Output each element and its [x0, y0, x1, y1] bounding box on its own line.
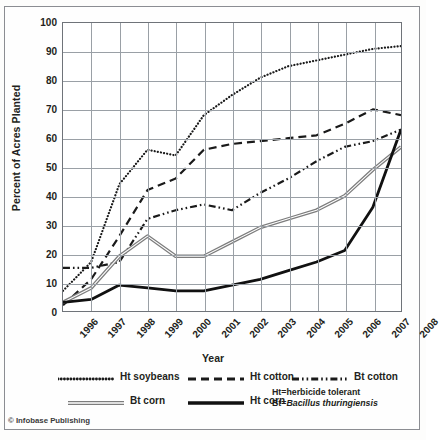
y-tick-label: 20 [27, 249, 57, 260]
legend-swatch-ht-cotton [188, 373, 244, 385]
x-tick-label: 2004 [304, 316, 327, 340]
gridline-horizontal [63, 284, 401, 285]
gridline-vertical [91, 23, 92, 311]
gridline-vertical [290, 23, 291, 311]
y-tick-label: 60 [27, 133, 57, 144]
gridline-vertical [261, 23, 262, 311]
gridline-vertical [375, 23, 376, 311]
note-ht: Ht=herbicide tolerant [272, 387, 378, 398]
x-tick-label: 2001 [219, 316, 242, 340]
x-tick-label: 2005 [332, 316, 355, 340]
gridline-horizontal [63, 226, 401, 227]
series-line-bt-corn-outer [63, 147, 401, 303]
gridline-vertical [205, 23, 206, 311]
legend-label-ht-soybeans: Ht soybeans [120, 371, 179, 382]
gridline-horizontal [63, 139, 401, 140]
series-line-ht-corn [63, 130, 401, 303]
gridline-vertical [120, 23, 121, 311]
plot-area-wrapper: Percent of Acres Planted 010203040506070… [0, 0, 426, 330]
gridline-vertical [318, 23, 319, 311]
x-tick-label: 1999 [162, 316, 185, 340]
gridline-vertical [233, 23, 234, 311]
gridline-horizontal [63, 168, 401, 169]
x-tick-label: 2006 [360, 316, 383, 340]
x-tick-label: 2000 [190, 316, 213, 340]
gridline-horizontal [63, 52, 401, 53]
legend-notes: Ht=herbicide tolerant Bt=Bacillus thurin… [272, 387, 378, 409]
legend-swatch-bt-cotton [292, 373, 348, 385]
series-canvas [63, 23, 401, 311]
y-tick-label: 40 [27, 191, 57, 202]
copyright-credit: © Infobase Publishing [8, 416, 90, 425]
note-bt-italic: Bacillus thuringiensis [286, 398, 377, 408]
note-bt: Bt=Bacillus thuringiensis [272, 398, 378, 409]
gridline-vertical [346, 23, 347, 311]
y-tick-label: 100 [27, 17, 57, 28]
y-tick-label: 0 [27, 307, 57, 318]
gridline-horizontal [63, 81, 401, 82]
legend-label-ht-cotton: Ht cotton [250, 371, 294, 382]
x-tick-label: 2002 [247, 316, 270, 340]
gridline-vertical [176, 23, 177, 311]
legend-label-bt-corn: Bt corn [130, 395, 165, 406]
x-tick-label: 2008 [417, 316, 440, 340]
y-tick-label: 10 [27, 278, 57, 289]
x-axis-label: Year [0, 352, 426, 364]
x-tick-label: 2003 [275, 316, 298, 340]
legend-swatch-ht-corn [188, 397, 244, 409]
y-tick-label: 90 [27, 46, 57, 57]
y-tick-label: 70 [27, 104, 57, 115]
y-tick-label: 80 [27, 75, 57, 86]
note-bt-prefix: Bt= [272, 398, 286, 408]
legend-label-bt-cotton: Bt cotton [354, 371, 398, 382]
y-axis-label: Percent of Acres Planted [10, 53, 22, 243]
gridline-horizontal [63, 110, 401, 111]
y-tick-label: 30 [27, 220, 57, 231]
plot-area [62, 22, 402, 312]
x-tick-label: 1998 [134, 316, 157, 340]
x-tick-label: 1996 [77, 316, 100, 340]
gridline-horizontal [63, 255, 401, 256]
x-tick-label: 1997 [105, 316, 128, 340]
gridline-vertical [148, 23, 149, 311]
legend-swatch-bt-corn [68, 397, 124, 409]
y-axis-ticks: 0102030405060708090100 [26, 14, 60, 316]
series-line-bt-corn-inner [63, 147, 401, 303]
legend-swatch-ht-soybeans [58, 373, 114, 385]
gridline-horizontal [63, 197, 401, 198]
y-tick-label: 50 [27, 162, 57, 173]
